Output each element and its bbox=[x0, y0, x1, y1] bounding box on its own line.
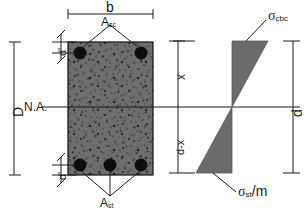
leader-line-sigma-st bbox=[213, 173, 236, 192]
label-neutral-axis: N.A. bbox=[24, 101, 47, 113]
label-overall-depth-D: D bbox=[11, 107, 25, 117]
label-stress-steel: σst/m bbox=[238, 184, 267, 200]
label-effective-depth-d: d bbox=[290, 109, 304, 117]
label-tension-steel: Ast bbox=[100, 197, 113, 210]
sigma-symbol-concrete: σ bbox=[268, 8, 276, 23]
beam-cross-section bbox=[68, 42, 153, 175]
rebar-group-tension bbox=[74, 159, 148, 172]
compressive-stress-triangle bbox=[232, 41, 268, 107]
label-cover-bottom: d' bbox=[57, 172, 68, 180]
sigma-symbol-steel: σ bbox=[238, 184, 246, 199]
compression-steel-subscript: sc bbox=[109, 21, 116, 28]
beam-section-figure: b D N.A. d' d' Asc Ast x d-x d σcbc σst/… bbox=[0, 0, 308, 214]
label-width-b: b bbox=[106, 0, 114, 14]
leader-line-sigma-cbc bbox=[246, 20, 266, 41]
label-compression-steel: Asc bbox=[101, 16, 116, 29]
label-depth-of-na-x: x bbox=[175, 74, 187, 80]
label-stress-concrete: σcbc bbox=[268, 8, 288, 24]
label-lever-arm-d-minus-x: d-x bbox=[175, 140, 186, 155]
tensile-stress-triangle bbox=[196, 107, 232, 173]
label-cover-top: d' bbox=[57, 48, 68, 56]
sigma-concrete-subscript: cbc bbox=[276, 14, 289, 23]
tension-steel-subscript: st bbox=[108, 202, 113, 209]
tension-steel-symbol: A bbox=[100, 196, 108, 210]
compression-steel-symbol: A bbox=[101, 15, 109, 29]
sigma-steel-modular-ratio: /m bbox=[252, 183, 268, 199]
